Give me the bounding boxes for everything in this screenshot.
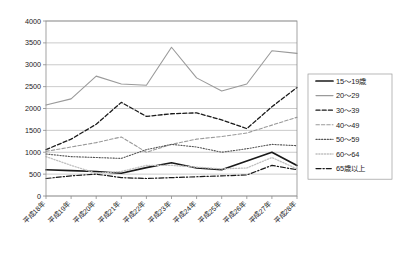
x-axis-tick-label: 平成28年 bbox=[272, 199, 299, 226]
chart-legend: 15〜19歳20〜2930〜3940〜4950〜5960〜6465歳以上 bbox=[308, 74, 392, 179]
series-lines bbox=[46, 47, 297, 178]
x-axis-tick-label: 平成23年 bbox=[146, 199, 173, 226]
y-axis-tick-label: 3000 bbox=[25, 60, 41, 69]
y-axis-tick-label: 500 bbox=[29, 170, 41, 179]
y-axis-tick-labels: 05001000150020002500300035004000 bbox=[25, 17, 41, 201]
series-line-7 bbox=[46, 165, 297, 178]
series-line-2 bbox=[46, 47, 297, 105]
chart-svg: 05001000150020002500300035004000 平成18年平成… bbox=[0, 0, 395, 253]
legend-label-4: 40〜49 bbox=[336, 121, 359, 130]
x-axis-tick-label: 平成19年 bbox=[46, 199, 73, 226]
y-axis-tick-label: 1500 bbox=[25, 126, 41, 135]
y-axis-tick-label: 2500 bbox=[25, 82, 41, 91]
y-axis-tick-label: 2000 bbox=[25, 104, 41, 113]
legend-label-3: 30〜39 bbox=[336, 106, 359, 115]
series-line-3 bbox=[46, 88, 297, 150]
line-chart: 05001000150020002500300035004000 平成18年平成… bbox=[0, 0, 395, 253]
x-axis-tick-labels: 平成18年平成19年平成20年平成21年平成22年平成23年平成24年平成25年… bbox=[21, 199, 299, 226]
x-axis-tick-label: 平成21年 bbox=[96, 199, 123, 226]
legend-label-1: 15〜19歳 bbox=[336, 77, 367, 86]
x-axis-tick-label: 平成24年 bbox=[171, 199, 198, 226]
legend-label-7: 65歳以上 bbox=[336, 164, 366, 173]
y-axis-tick-label: 3500 bbox=[25, 38, 41, 47]
x-axis-tick-label: 平成25年 bbox=[196, 199, 223, 226]
legend-label-6: 60〜64 bbox=[336, 150, 359, 159]
legend-label-5: 50〜59 bbox=[336, 135, 359, 144]
legend-label-2: 20〜29 bbox=[336, 91, 359, 100]
x-axis-tick-label: 平成18年 bbox=[21, 199, 48, 226]
x-axis-ticks bbox=[46, 196, 297, 199]
x-axis-tick-label: 平成22年 bbox=[121, 199, 148, 226]
y-axis-tick-label: 0 bbox=[37, 192, 41, 201]
x-axis-tick-label: 平成27年 bbox=[247, 199, 274, 226]
gridlines bbox=[43, 21, 297, 196]
x-axis-tick-label: 平成20年 bbox=[71, 199, 98, 226]
y-axis-tick-label: 1000 bbox=[25, 148, 41, 157]
y-axis-tick-label: 4000 bbox=[25, 17, 41, 26]
x-axis-tick-label: 平成26年 bbox=[221, 199, 248, 226]
